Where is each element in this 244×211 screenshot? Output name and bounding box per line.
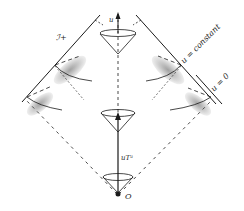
uT-label: uTᵃ bbox=[121, 154, 133, 162]
origin-point bbox=[116, 192, 121, 197]
u-arrow-label: u bbox=[109, 16, 114, 24]
scri-plus-left-line bbox=[22, 15, 100, 102]
origin-label: O bbox=[125, 192, 132, 201]
u-constant-right-line bbox=[136, 15, 216, 104]
arrowhead-icon bbox=[115, 112, 121, 120]
tilted-cone-left-top bbox=[95, 20, 103, 25]
tilted-cone-left-upper bbox=[50, 51, 92, 100]
light-cone-top bbox=[100, 12, 136, 54]
u-constant-label: u = constant bbox=[179, 22, 223, 66]
scri-plus-label: ℐ+ bbox=[56, 33, 67, 42]
dashed-right-null-line bbox=[119, 100, 212, 194]
dashed-left-null-line bbox=[26, 100, 117, 194]
u-zero-label: u = 0 bbox=[209, 71, 231, 93]
light-cone-diagram: ℐ+ u u = constant u = 0 uTᵃ O bbox=[0, 0, 244, 211]
tilted-cone-right-top bbox=[133, 20, 141, 25]
